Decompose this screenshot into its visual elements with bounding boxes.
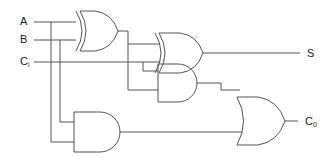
and-gate-2 xyxy=(74,112,120,152)
xor-gate-1 xyxy=(76,11,118,51)
output-label-c0: C0 xyxy=(305,116,317,128)
and-gate-1 xyxy=(158,64,197,102)
or-gate xyxy=(237,97,285,145)
xor1-output-wires xyxy=(118,31,160,90)
input-label-ci: Ci xyxy=(20,56,30,68)
full-adder-circuit xyxy=(0,0,336,164)
and1-output-wire xyxy=(197,83,240,90)
output-label-s: S xyxy=(307,48,314,59)
xor-gate-2 xyxy=(155,33,203,73)
input-wires xyxy=(34,22,160,142)
input-label-b: B xyxy=(20,34,27,45)
input-label-a: A xyxy=(20,16,27,27)
